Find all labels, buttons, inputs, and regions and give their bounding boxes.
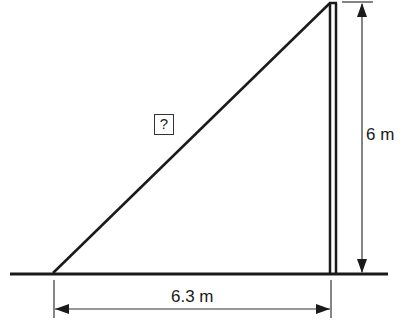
hypotenuse-line	[53, 3, 330, 273]
height-label: 6 m	[366, 126, 394, 143]
base-label: 6.3 m	[171, 288, 214, 305]
unknown-length-box: ?	[154, 114, 174, 135]
unknown-length-label: ?	[160, 115, 168, 132]
arrow-left-icon	[55, 304, 69, 314]
arrow-right-icon	[316, 304, 330, 314]
arrow-down-icon	[357, 259, 367, 273]
diagram-canvas	[0, 0, 406, 320]
arrow-up-icon	[357, 3, 367, 17]
